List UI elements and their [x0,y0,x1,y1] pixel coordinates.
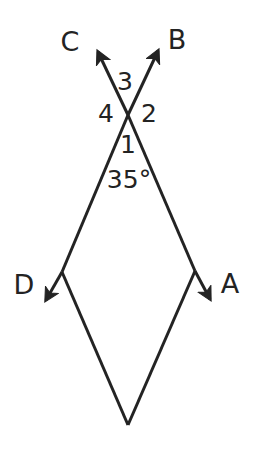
angle-label-3: 3 [117,69,133,94]
ray-to-d [46,272,62,300]
vertex-label-b: B [168,26,187,53]
angle-label-4: 4 [98,101,114,126]
angle-label-2: 2 [141,101,157,126]
ray-to-a [195,271,210,299]
segment-left-lower [62,272,128,425]
figure-line-group [46,51,210,425]
angle-label-1: 1 [120,132,136,157]
geometry-figure: C B D A 3 4 2 1 35° [0,0,254,459]
vertex-label-d: D [14,271,35,298]
vertex-label-c: C [61,28,80,55]
vertex-label-a: A [221,270,239,297]
angle-measure-35-degrees: 35° [107,167,151,192]
segment-left-upper [62,115,128,272]
segment-right-lower [128,271,195,425]
